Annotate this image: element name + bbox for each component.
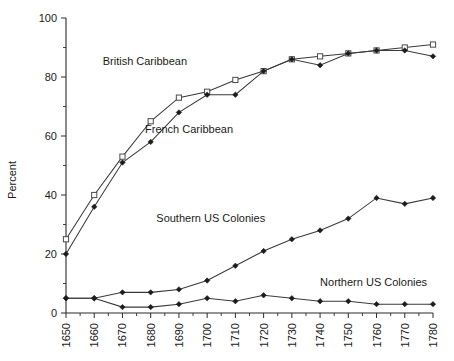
data-point <box>233 77 238 82</box>
y-axis-label: Percent <box>6 161 18 199</box>
data-point <box>63 237 68 242</box>
x-tick-label: 1720 <box>258 323 270 347</box>
y-tick-label: 40 <box>45 189 57 201</box>
x-tick-label: 1750 <box>342 323 354 347</box>
data-point <box>92 192 97 197</box>
y-tick-label: 80 <box>45 71 57 83</box>
annotation-label: French Caribbean <box>145 123 233 135</box>
x-tick-label: 1730 <box>286 323 298 347</box>
annotation-label: Northern US Colonies <box>320 276 427 288</box>
x-tick-label: 1780 <box>427 323 439 347</box>
y-tick-label: 100 <box>39 12 57 24</box>
x-tick-label: 1670 <box>116 323 128 347</box>
x-tick-label: 1760 <box>371 323 383 347</box>
data-point <box>430 42 435 47</box>
data-point <box>176 95 181 100</box>
y-tick-label: 0 <box>51 307 57 319</box>
data-point <box>317 54 322 59</box>
x-tick-label: 1740 <box>314 323 326 347</box>
annotation-label: Southern US Colonies <box>156 212 265 224</box>
chart-container: 020406080100 165016601670168016901700171… <box>0 0 454 361</box>
y-tick-label: 20 <box>45 248 57 260</box>
x-tick-label: 1660 <box>88 323 100 347</box>
x-tick-label: 1710 <box>229 323 241 347</box>
y-tick-label: 60 <box>45 130 57 142</box>
x-tick-label: 1770 <box>399 323 411 347</box>
line-chart: 020406080100 165016601670168016901700171… <box>0 0 454 361</box>
x-tick-label: 1680 <box>145 323 157 347</box>
annotation-label: British Caribbean <box>103 55 187 67</box>
x-tick-label: 1650 <box>60 323 72 347</box>
x-tick-label: 1700 <box>201 323 213 347</box>
chart-background <box>0 0 454 361</box>
x-tick-label: 1690 <box>173 323 185 347</box>
data-point <box>120 154 125 159</box>
